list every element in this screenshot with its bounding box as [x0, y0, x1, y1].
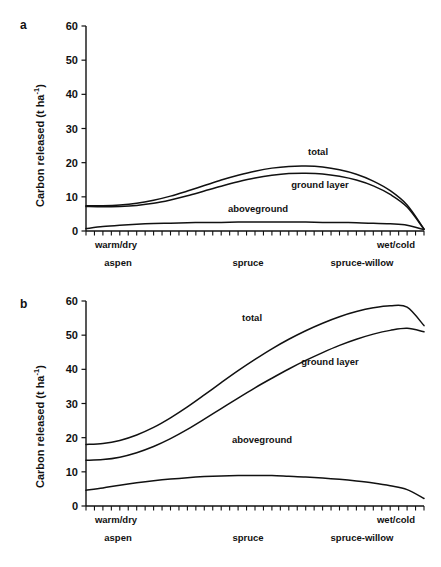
- series-label-total: total: [308, 146, 328, 157]
- y-axis-tick-label: 0: [72, 500, 78, 512]
- x-axis-category-label: aspen: [104, 257, 132, 268]
- y-axis-tick-label: 40: [66, 88, 78, 100]
- y-axis-tick-label: 60: [66, 20, 78, 32]
- y-axis-tick-label: 40: [66, 363, 78, 375]
- curve-aboveground: [86, 222, 424, 230]
- x-axis-category-label: spruce-willow: [331, 257, 394, 268]
- figure-root: a Carbon released (t ha-1) 0102030405060…: [0, 0, 441, 567]
- y-axis-tick-label: 10: [66, 466, 78, 478]
- y-axis-tick-label: 60: [66, 295, 78, 307]
- x-axis-endpoint-label-cold: wet/cold: [376, 514, 415, 525]
- x-axis-category-label: aspen: [104, 532, 132, 543]
- series-label-total: total: [242, 312, 262, 323]
- panel-b: b Carbon released (t ha-1) 0102030405060…: [0, 283, 441, 567]
- series-label-aboveground: aboveground: [232, 434, 292, 445]
- x-axis-category-label: spruce: [232, 257, 263, 268]
- panel-a-plot: 0102030405060warm/drywet/coldaspenspruce…: [0, 0, 441, 283]
- y-axis-tick-label: 50: [66, 54, 78, 66]
- x-axis-category-label: spruce: [232, 532, 263, 543]
- curve-aboveground: [86, 476, 424, 499]
- series-label-ground-layer: ground layer: [301, 356, 359, 367]
- y-axis-tick-label: 50: [66, 329, 78, 341]
- curve-total: [86, 305, 424, 444]
- y-axis-tick-label: 20: [66, 432, 78, 444]
- x-axis-endpoint-label-warm: warm/dry: [94, 514, 138, 525]
- series-label-aboveground: aboveground: [228, 203, 288, 214]
- curve-total: [86, 166, 424, 229]
- x-axis-category-label: spruce-willow: [331, 532, 394, 543]
- panel-b-plot: 0102030405060warm/drywet/coldaspenspruce…: [0, 283, 441, 567]
- y-axis-tick-label: 10: [66, 191, 78, 203]
- x-axis-endpoint-label-warm: warm/dry: [94, 239, 138, 250]
- y-axis-tick-label: 30: [66, 398, 78, 410]
- y-axis-tick-label: 0: [72, 225, 78, 237]
- panel-a: a Carbon released (t ha-1) 0102030405060…: [0, 0, 441, 283]
- series-label-ground-layer: ground layer: [291, 179, 349, 190]
- x-axis-endpoint-label-cold: wet/cold: [376, 239, 415, 250]
- y-axis-tick-label: 20: [66, 157, 78, 169]
- y-axis-tick-label: 30: [66, 123, 78, 135]
